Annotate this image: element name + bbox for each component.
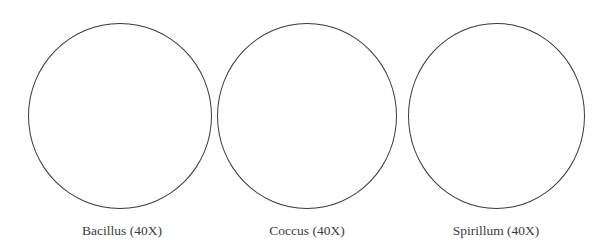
microscope-field-coccus [217,23,397,209]
field-label-coccus: Coccus (40X) [227,222,387,240]
microscope-field-spirillum [408,23,585,209]
field-label-bacillus: Bacillus (40X) [42,222,202,240]
field-label-spirillum: Spirillum (40X) [416,222,576,240]
microscope-field-bacillus [28,23,212,209]
